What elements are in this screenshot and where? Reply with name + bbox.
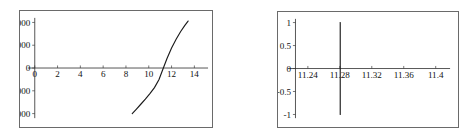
y-tick-label: 5000	[20, 40, 31, 50]
x-tick-label: 0	[32, 69, 37, 79]
y-tick-label: -1	[283, 110, 291, 120]
x-tick-label: 11.4	[428, 70, 444, 80]
y-tick-label: 0.5	[280, 41, 292, 51]
right-plot-frame: 10.50-0.5-111.2411.2811.3211.3611.4	[277, 11, 459, 128]
figure-page: 1000050000-5000-1000002468101214 10.50-0…	[0, 0, 468, 136]
x-tick-label: 12	[167, 69, 177, 79]
y-tick-label: 10000	[20, 18, 31, 28]
x-tick-label: 11.32	[362, 70, 383, 80]
x-tick-label: 2	[55, 69, 60, 79]
right-plot-canvas: 10.50-0.5-111.2411.2811.3211.3611.4	[278, 12, 458, 127]
y-tick-label: -10000	[20, 109, 31, 119]
x-tick-label: 14	[190, 69, 200, 79]
x-tick-label: 10	[144, 69, 154, 79]
x-tick-label: 8	[124, 69, 129, 79]
left-plot-canvas: 1000050000-5000-1000002468101214	[20, 11, 212, 127]
data-curve	[132, 21, 188, 114]
y-tick-label: -0.5	[278, 87, 291, 97]
x-tick-label: 11.36	[394, 70, 415, 80]
x-tick-label: 11.24	[298, 70, 319, 80]
y-tick-label: 1	[286, 18, 291, 28]
x-tick-label: 6	[101, 69, 106, 79]
left-plot-frame: 1000050000-5000-1000002468101214	[19, 10, 213, 128]
y-tick-label: -5000	[20, 86, 31, 96]
y-tick-label: 0	[286, 64, 291, 74]
x-tick-label: 4	[78, 69, 83, 79]
y-tick-label: 0	[26, 63, 31, 73]
